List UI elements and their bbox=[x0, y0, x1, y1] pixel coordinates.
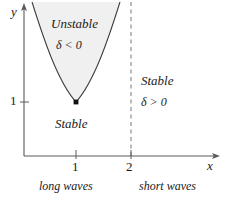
stable-region-label-left: Stable bbox=[55, 117, 88, 130]
short-waves-label: short waves bbox=[139, 180, 196, 192]
unstable-region-label: Unstable bbox=[51, 17, 98, 30]
y-axis-label: y bbox=[11, 5, 17, 18]
delta-positive-label: δ > 0 bbox=[141, 96, 167, 108]
x-axis-label: x bbox=[207, 159, 213, 172]
x-tick-label-1: 1 bbox=[72, 160, 79, 173]
stability-diagram-figure: y x Unstable δ < 0 Stable Stable δ > 0 1… bbox=[0, 0, 229, 201]
long-waves-label: long waves bbox=[39, 180, 93, 192]
vertex-point-marker bbox=[74, 100, 79, 105]
y-tick-label-1: 1 bbox=[10, 94, 17, 107]
delta-negative-label: δ < 0 bbox=[56, 39, 82, 51]
x-tick-label-2: 2 bbox=[126, 160, 133, 173]
plot-canvas bbox=[0, 0, 229, 201]
stable-region-label-right: Stable bbox=[141, 74, 174, 87]
